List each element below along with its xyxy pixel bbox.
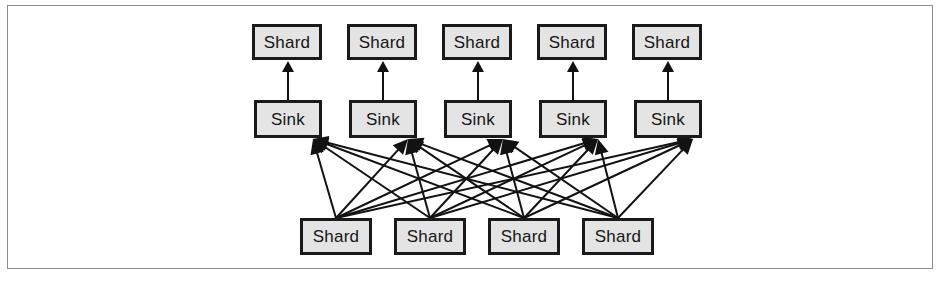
- node-label: Sink: [651, 111, 685, 128]
- node-label: Sink: [271, 111, 305, 128]
- node-bottom-shard-4: Shard: [582, 218, 654, 255]
- node-sink-4: Sink: [539, 100, 607, 138]
- node-label: Shard: [549, 34, 595, 51]
- node-bottom-shard-1: Shard: [300, 218, 372, 255]
- node-label: Sink: [556, 111, 590, 128]
- node-sink-5: Sink: [634, 100, 702, 138]
- node-top-shard-1: Shard: [252, 24, 322, 60]
- node-top-shard-3: Shard: [442, 24, 512, 60]
- node-label: Shard: [264, 34, 310, 51]
- node-label: Shard: [644, 34, 690, 51]
- node-top-shard-5: Shard: [632, 24, 702, 60]
- node-label: Sink: [366, 111, 400, 128]
- node-bottom-shard-3: Shard: [488, 218, 560, 255]
- node-label: Shard: [407, 228, 453, 245]
- node-label: Shard: [501, 228, 547, 245]
- node-label: Shard: [313, 228, 359, 245]
- arrowhead-sink-2-to-shard-2: [377, 61, 389, 72]
- edge-shard-1-to-sink-1: [317, 151, 336, 218]
- node-bottom-shard-2: Shard: [394, 218, 466, 255]
- node-label: Sink: [461, 111, 495, 128]
- node-sink-1: Sink: [254, 100, 322, 138]
- diagram-figure: ShardShardShardShardShardSinkSinkSinkSin…: [0, 0, 944, 282]
- arrowhead-sink-1-to-shard-1: [282, 61, 294, 72]
- arrowhead-sink-3-to-shard-3: [472, 61, 484, 72]
- edges-sink-to-shard: [288, 69, 668, 100]
- node-sink-3: Sink: [444, 100, 512, 138]
- node-top-shard-4: Shard: [537, 24, 607, 60]
- node-label: Shard: [359, 34, 405, 51]
- edge-shard-4-to-sink-2: [420, 144, 618, 218]
- node-sink-2: Sink: [349, 100, 417, 138]
- node-label: Shard: [595, 228, 641, 245]
- node-label: Shard: [454, 34, 500, 51]
- node-top-shard-2: Shard: [347, 24, 417, 60]
- edge-shard-3-to-sink-1: [325, 144, 524, 218]
- arrowhead-sink-5-to-shard-5: [662, 61, 674, 72]
- edges-shard-to-sink: [317, 142, 684, 218]
- arrowhead-sink-4-to-shard-4: [567, 61, 579, 72]
